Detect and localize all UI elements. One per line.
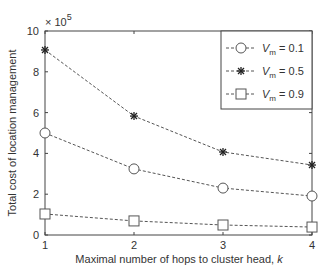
x-tick-label: 4 [309,239,315,251]
x-tick-label: 2 [131,239,137,251]
star-marker [41,46,49,54]
x-tick-label: 1 [42,239,48,251]
circle-marker [307,191,317,201]
square-marker [236,89,246,99]
y-axis-label: Total cost of location management [6,50,18,217]
x-tick-label: 3 [220,239,226,251]
legend: Vm = 0.1Vm = 0.5Vm = 0.9 [221,31,312,109]
square-marker [129,216,139,226]
y-tick-label: 6 [33,107,39,119]
square-marker [40,209,50,219]
series-line [45,214,312,227]
star-marker [130,112,138,120]
circle-marker [218,183,228,193]
square-marker [218,220,228,230]
y-tick-label: 8 [33,66,39,78]
chart: 12340246810 × 105 Maximal number of hops… [0,0,324,274]
circle-marker [129,164,139,174]
square-marker [307,222,317,232]
star-marker [219,148,227,156]
y-tick-label: 0 [33,229,39,241]
circle-marker [236,43,246,53]
y-tick-label: 4 [33,147,39,159]
series-line [45,133,312,196]
y-tick-label: 10 [27,25,39,37]
y-multiplier: × 105 [45,12,72,28]
x-axis-label: Maximal number of hops to cluster head, … [75,253,283,265]
circle-marker [40,128,50,138]
star-marker [308,161,316,169]
star-marker [237,67,245,75]
y-tick-label: 2 [33,188,39,200]
